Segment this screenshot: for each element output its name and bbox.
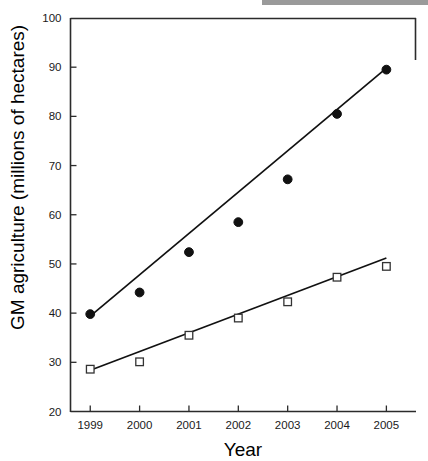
y-tick-label: 70: [49, 160, 62, 172]
y-axis-title: GM agriculture (millions of hectares): [7, 25, 28, 330]
y-axis-ticks: 2030405060708090100: [42, 12, 76, 418]
data-point-filled-circle: [135, 288, 144, 297]
x-tick-label: 1999: [77, 419, 103, 431]
trend-line-series-0: [90, 68, 386, 316]
data-point-open-square: [284, 298, 292, 306]
data-point-open-square: [86, 365, 94, 373]
y-tick-label: 80: [49, 110, 62, 122]
data-markers-group: [86, 65, 391, 373]
y-tick-label: 30: [49, 356, 62, 368]
gm-agriculture-scatter-chart: 2030405060708090100 19992000200120022003…: [0, 0, 428, 461]
axes-group: [71, 18, 417, 412]
y-tick-label: 40: [49, 307, 62, 319]
x-tick-label: 2002: [226, 419, 252, 431]
data-point-filled-circle: [283, 175, 292, 184]
data-point-filled-circle: [333, 110, 342, 119]
y-tick-label: 100: [42, 12, 61, 24]
data-point-filled-circle: [382, 65, 391, 74]
x-axis-ticks: 1999200020012002200320042005: [77, 406, 399, 431]
x-tick-label: 2004: [324, 419, 350, 431]
data-point-open-square: [383, 263, 391, 271]
x-axis-title: Year: [224, 439, 263, 460]
y-tick-label: 60: [49, 209, 62, 221]
data-point-filled-circle: [86, 310, 95, 319]
y-tick-label: 50: [49, 258, 62, 270]
x-tick-label: 2003: [275, 419, 301, 431]
data-point-filled-circle: [185, 248, 194, 257]
y-tick-label: 20: [49, 406, 62, 418]
chart-page: 2030405060708090100 19992000200120022003…: [0, 0, 428, 461]
x-tick-label: 2000: [127, 419, 153, 431]
x-tick-label: 2001: [176, 419, 202, 431]
data-point-open-square: [333, 273, 341, 281]
data-point-open-square: [235, 314, 243, 322]
data-point-open-square: [185, 331, 193, 339]
y-tick-label: 90: [49, 61, 62, 73]
data-point-filled-circle: [234, 218, 243, 227]
data-point-open-square: [136, 358, 144, 366]
x-tick-label: 2005: [374, 419, 400, 431]
